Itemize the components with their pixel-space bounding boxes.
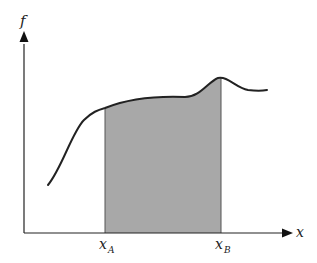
integral-diagram: f x x A x B xyxy=(0,0,317,263)
lower-bound-label: x A xyxy=(99,236,115,255)
x-axis-arrow-icon xyxy=(282,229,293,238)
y-axis-label: f xyxy=(19,12,28,30)
svg-text:x: x xyxy=(99,236,107,252)
x-axis-label: x xyxy=(296,224,304,240)
shaded-area xyxy=(105,78,221,233)
svg-text:B: B xyxy=(223,245,231,255)
upper-bound-label: x B xyxy=(215,236,231,255)
svg-text:x: x xyxy=(215,236,223,252)
svg-text:A: A xyxy=(107,245,115,255)
y-axis-arrow-icon xyxy=(20,31,29,42)
